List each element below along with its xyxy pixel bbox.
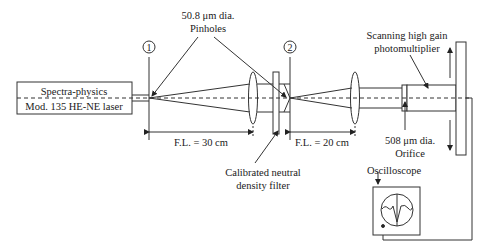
filter-label-line1: Calibrated neutral (225, 167, 301, 178)
focal-length-2-label: F.L. = 20 cm (295, 137, 349, 148)
oscilloscope (373, 187, 420, 235)
pinholes-label-line1: 50.8 μm dia. (182, 10, 235, 21)
orifice-label-line1: 508 μm dia. (385, 135, 435, 146)
orifice-label-line2: Orifice (395, 148, 425, 159)
laser-label-line1: Spectra-physics (41, 86, 107, 97)
focal-length-1-label: F.L. = 30 cm (174, 137, 228, 148)
oscilloscope-label: Oscilloscope (367, 165, 422, 176)
pmt-label-line1: Scanning high gain (366, 30, 448, 41)
pinhole-1-number: 1 (147, 42, 152, 53)
filter-label-line2: density filter (236, 180, 290, 191)
laser-label-line2: Mod. 135 HE-NE laser (25, 101, 123, 112)
optical-setup-diagram: 1 2 Spectra-physics Mod. 135 HE-NE laser… (0, 0, 495, 250)
pinhole-2-number: 2 (288, 42, 293, 53)
pinholes-label-line2: Pinholes (190, 23, 226, 34)
pmt-label-line2: photomultiplier (374, 43, 440, 54)
neutral-density-filter (273, 72, 279, 134)
